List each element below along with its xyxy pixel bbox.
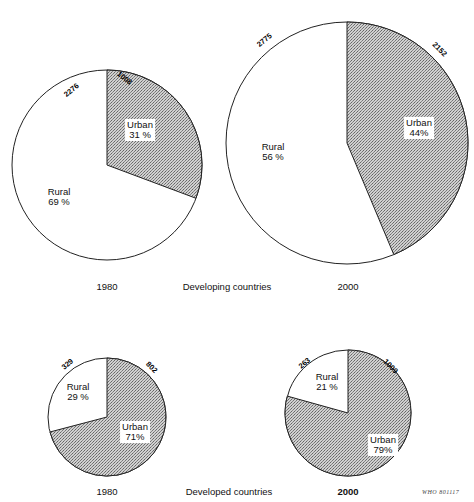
rural-label-percent: 69 % (48, 197, 71, 207)
urban-label: Urban31 % (125, 119, 155, 141)
rural-label-percent: 56 % (262, 152, 285, 162)
caption-developed-group: Developed countries (186, 486, 273, 497)
urban-label-percent: 31 % (127, 130, 153, 140)
pie-charts-figure: 10082276215227758023291009263 (0, 0, 474, 502)
rural-value-label: 2775 (255, 31, 274, 49)
urban-value-label: 2152 (431, 40, 449, 58)
pie-developed-countries-1980 (48, 358, 166, 476)
urban-label-percent: 79% (370, 445, 396, 455)
rural-label-percent: 29 % (67, 392, 90, 402)
pie-developing-countries-1980 (12, 70, 202, 260)
urban-label: Urban71% (120, 421, 150, 443)
rural-label-percent: 21 % (316, 382, 339, 392)
rural-label: Rural56 % (260, 141, 287, 163)
urban-label-percent: 44% (406, 128, 432, 138)
rural-label: Rural69 % (46, 186, 73, 208)
rural-label: Rural21 % (314, 371, 341, 393)
source-code: WHO 801117 (422, 489, 459, 495)
caption-developed-2000: 2000 (337, 486, 358, 497)
caption-developing-1980: 1980 (96, 281, 117, 292)
rural-label: Rural29 % (65, 381, 92, 403)
urban-label-percent: 71% (122, 432, 148, 442)
caption-developing-group: Developing countries (183, 281, 272, 292)
urban-label: Urban44% (404, 117, 434, 139)
caption-developing-2000: 2000 (337, 281, 358, 292)
caption-developed-1980: 1980 (96, 486, 117, 497)
urban-label: Urban79% (368, 434, 398, 456)
